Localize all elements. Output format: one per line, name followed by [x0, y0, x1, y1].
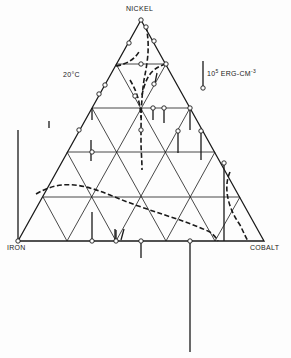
grid-lines: [43, 64, 240, 241]
vertex-label-nickel: NICKEL: [126, 5, 153, 12]
vertex-label-iron: IRON: [7, 244, 26, 251]
scale-legend-label: 105 ERG-CM-3: [207, 68, 256, 77]
vertex-label-cobalt: COBALT: [250, 244, 279, 251]
temperature-label: 20°C: [63, 71, 80, 78]
scale-exponent: 5: [215, 68, 218, 74]
scale-legend-bar: [201, 61, 205, 90]
ternary-diagram: NICKEL IRON COBALT 20°C 105 ERG-CM-3: [0, 0, 291, 358]
scale-unit: ERG-CM: [221, 70, 251, 77]
data-points: [16, 18, 226, 243]
scale-unit-exponent: -3: [251, 68, 256, 74]
phase-boundaries: [36, 26, 248, 241]
ternary-plot: [0, 0, 291, 358]
